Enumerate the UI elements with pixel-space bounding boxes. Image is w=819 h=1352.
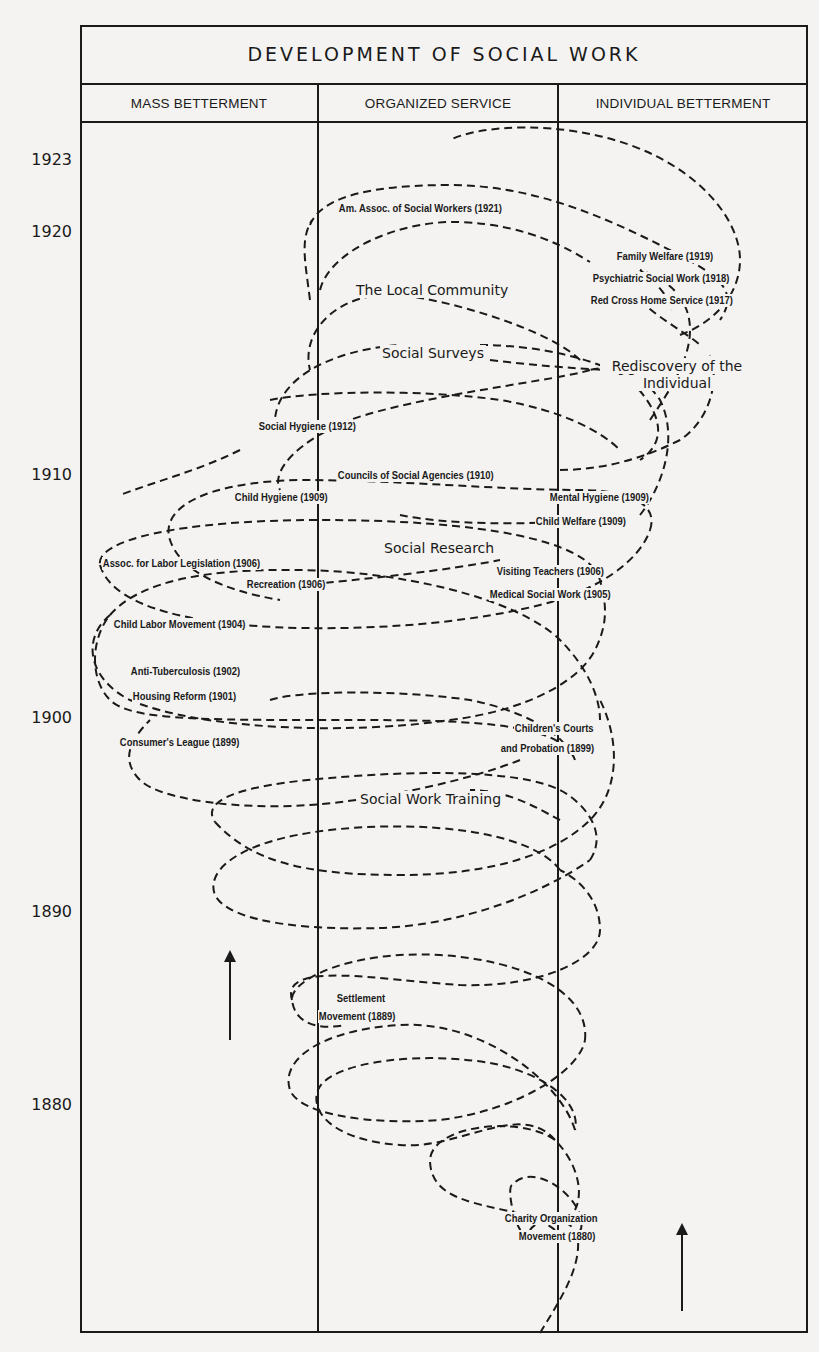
- label-red-cross-home-service: Red Cross Home Service (1917): [590, 294, 734, 307]
- phase-label-social-research: Social Research: [382, 540, 496, 556]
- label-child-labor-movement: Child Labor Movement (1904): [113, 618, 246, 631]
- phase-label-local-community: The Local Community: [354, 282, 510, 298]
- label-charity-organization-line1: Charity Organization: [504, 1212, 598, 1225]
- label-child-hygiene: Child Hygiene (1909): [234, 491, 328, 504]
- label-childrens-courts-line2: and Probation (1899): [500, 742, 595, 755]
- phase-label-social-surveys: Social Surveys: [380, 345, 486, 361]
- label-psychiatric-social-work: Psychiatric Social Work (1918): [592, 272, 730, 285]
- label-am-assoc-social-workers: Am. Assoc. of Social Workers (1921): [338, 202, 503, 215]
- label-medical-social-work: Medical Social Work (1905): [489, 588, 612, 601]
- label-mental-hygiene: Mental Hygiene (1909): [549, 491, 650, 504]
- label-settlement-line1: Settlement: [336, 992, 386, 1005]
- upward-arrow-left-icon: [229, 960, 231, 1040]
- label-councils-social-agencies: Councils of Social Agencies (1910): [337, 469, 494, 482]
- upward-arrow-right-icon: [681, 1233, 683, 1311]
- phase-label-rediscovery-line2: Individual: [600, 375, 754, 391]
- label-assoc-labor-legislation: Assoc. for Labor Legislation (1906): [102, 557, 261, 570]
- label-settlement-line2: Movement (1889): [318, 1010, 396, 1023]
- label-housing-reform: Housing Reform (1901): [132, 690, 237, 703]
- label-social-hygiene: Social Hygiene (1912): [258, 420, 357, 433]
- label-charity-organization-line2: Movement (1880): [518, 1230, 596, 1243]
- label-visiting-teachers: Visiting Teachers (1906): [496, 565, 605, 578]
- label-child-welfare: Child Welfare (1909): [535, 515, 627, 528]
- development-of-social-work-diagram: DEVELOPMENT OF SOCIAL WORK MASS BETTERME…: [0, 0, 819, 1352]
- label-anti-tuberculosis: Anti-Tuberculosis (1902): [130, 665, 241, 678]
- label-recreation: Recreation (1906): [246, 578, 326, 591]
- phase-label-rediscovery-line1: Rediscovery of the: [600, 358, 754, 374]
- label-family-welfare: Family Welfare (1919): [616, 250, 714, 263]
- label-childrens-courts-line1: Children's Courts: [514, 722, 594, 735]
- phase-label-social-work-training: Social Work Training: [358, 791, 503, 807]
- label-consumers-league: Consumer's League (1899): [119, 736, 240, 749]
